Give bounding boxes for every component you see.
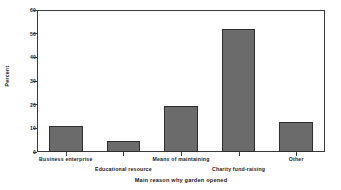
x-axis-category-label: Business enterprise (39, 156, 92, 163)
y-axis-title-text: Percent (4, 66, 10, 87)
bar-chart: Percent 0102030405060 Business enterpris… (0, 0, 341, 190)
x-axis-category-label: Other (289, 156, 304, 163)
x-axis-tick-mark (239, 152, 240, 156)
bar (164, 106, 197, 152)
x-axis-tick-mark (123, 152, 124, 156)
x-axis-category-label: Means of maintaining (152, 156, 209, 163)
x-axis-tick-mark (296, 152, 297, 156)
bar (279, 122, 312, 152)
x-axis-category-label: Educational resource (95, 166, 152, 173)
bar (49, 126, 82, 152)
x-axis-tick-mark (181, 152, 182, 156)
x-axis-title: Main reason why garden opened (37, 177, 325, 183)
bar (222, 29, 255, 152)
bar-series (37, 10, 325, 152)
y-axis-title: Percent (0, 0, 14, 152)
x-axis-category-label: Charity fund-raising (212, 166, 265, 173)
x-axis-tick-mark (66, 152, 67, 156)
bar (107, 141, 140, 152)
